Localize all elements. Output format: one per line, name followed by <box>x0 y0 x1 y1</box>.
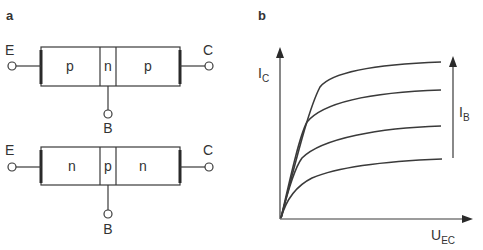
npn-collector-label: C <box>203 142 213 158</box>
npn-emitter-label: E <box>5 142 14 158</box>
npn-base-label: B <box>103 221 112 237</box>
npn-region-2: p <box>104 158 112 174</box>
curve-ib-1 <box>281 159 442 218</box>
x-axis-arrow-icon <box>462 215 473 223</box>
pnp-base-label: B <box>103 120 112 136</box>
y-axis-arrow-icon <box>276 47 284 58</box>
pnp-emitter-label: E <box>5 42 14 58</box>
pnp-collector-terminal <box>205 62 213 70</box>
pnp-transistor: p n p E C B <box>5 42 213 136</box>
panel-b-label: b <box>258 8 266 23</box>
ib-label: IB <box>459 104 470 123</box>
npn-emitter-terminal <box>8 163 16 171</box>
npn-region-3: n <box>139 158 147 174</box>
output-characteristics-chart: IC UEC IB <box>258 47 473 246</box>
y-axis-label: IC <box>258 65 269 84</box>
npn-transistor: n p n E C B <box>5 142 213 237</box>
npn-collector-terminal <box>205 163 213 171</box>
pnp-region-3: p <box>144 58 152 74</box>
pnp-region-1: p <box>66 58 74 74</box>
pnp-emitter-terminal <box>8 62 16 70</box>
curve-ib-4 <box>281 62 441 218</box>
panel-a-label: a <box>6 8 14 23</box>
pnp-base-terminal <box>104 110 112 118</box>
npn-base-terminal <box>104 210 112 218</box>
curve-ib-3 <box>281 90 441 218</box>
npn-region-1: n <box>68 158 76 174</box>
x-axis-label: UEC <box>431 227 455 246</box>
ib-arrow-head-icon <box>449 56 457 67</box>
pnp-collector-label: C <box>203 42 213 58</box>
transistor-figure: a p n p E C B n p n E <box>0 0 483 250</box>
pnp-region-2: n <box>104 58 112 74</box>
curve-ib-2 <box>281 126 441 218</box>
